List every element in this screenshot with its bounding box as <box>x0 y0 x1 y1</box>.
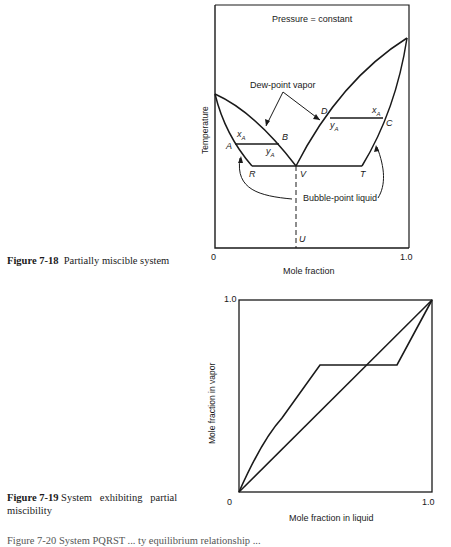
x-axis-label: Mole fraction in liquid <box>289 513 374 523</box>
y-tick-1: 1.0 <box>224 294 237 304</box>
y-axis-label: Mole fraction in vapor <box>207 363 217 444</box>
figure-7-19-caption: Figure 7-19 System exhibiting partialmis… <box>7 491 177 517</box>
x-tick-1: 1.0 <box>422 497 435 507</box>
cropped-footer-text: Figure 7-20 System PQRST ... ty equilibr… <box>7 534 261 547</box>
x-tick-0: 0 <box>227 497 232 507</box>
